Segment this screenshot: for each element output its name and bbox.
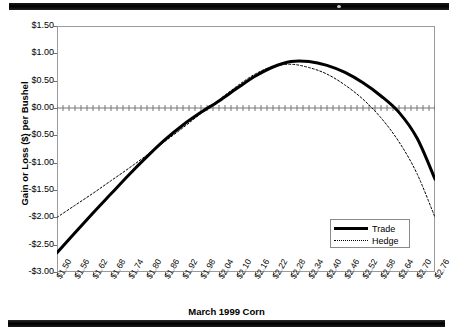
legend-swatch-hedge-icon — [334, 240, 368, 241]
y-axis-tick-label: -$2.50 — [2, 240, 54, 249]
zero-reference-line — [57, 105, 435, 111]
legend-label-hedge: Hedge — [372, 236, 399, 246]
x-axis-tick-label: $2.76 — [433, 258, 451, 281]
legend-item-hedge[interactable]: Hedge — [334, 235, 408, 246]
legend-label-trade: Trade — [372, 224, 395, 234]
series-line-hedge — [57, 64, 435, 217]
scan-artifact-bottom-bar — [8, 320, 445, 327]
legend-item-trade[interactable]: Trade — [334, 223, 408, 234]
x-axis-title: March 1999 Corn — [0, 306, 453, 317]
y-axis-tick-label: $1.00 — [2, 48, 54, 57]
scan-artifact-top-bar — [9, 3, 449, 10]
y-axis-tick-label: $1.50 — [2, 21, 54, 30]
chart-canvas: $1.50$1.00$0.50$0.00-$0.50-$1.00-$1.50-$… — [0, 0, 453, 333]
legend-swatch-trade-icon — [334, 227, 368, 230]
chart-legend[interactable]: Trade Hedge — [330, 219, 410, 248]
y-axis-title: Gain or Loss ($) per Bushel — [19, 64, 30, 224]
